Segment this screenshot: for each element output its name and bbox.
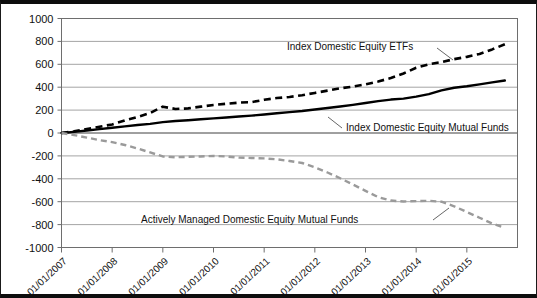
x-tick-label: 01/01/2015: [430, 255, 474, 297]
x-tick-label: 01/01/2007: [25, 255, 69, 297]
y-tick-label: 200: [35, 104, 53, 116]
annotation-index-domestic-equity-mutual-funds-leader-line: [328, 117, 342, 128]
annotation-index-domestic-equity-etfs: Index Domestic Equity ETFs: [287, 41, 413, 52]
series-line-index-domestic-equity-etfs: [62, 44, 505, 133]
y-tick-label: 1000: [29, 13, 53, 25]
y-tick-label: 800: [35, 35, 53, 47]
annotation-actively-managed-domestic-equity-mutual-funds: Actively Managed Domestic Equity Mutual …: [141, 214, 358, 225]
y-tick-label: -800: [31, 219, 53, 231]
annotation-index-domestic-equity-mutual-funds: Index Domestic Equity Mutual Funds: [346, 122, 509, 133]
y-tick-label: 0: [47, 127, 53, 139]
x-tick-label: 01/01/2008: [75, 255, 119, 297]
y-tick-label: 400: [35, 81, 53, 93]
y-tick-label: -600: [31, 196, 53, 208]
x-tick-label: 01/01/2013: [329, 255, 373, 297]
y-tick-label: -400: [31, 173, 53, 185]
y-tick-label: -1000: [25, 242, 53, 254]
x-tick-label: 01/01/2014: [379, 255, 423, 297]
x-tick-label: 01/01/2012: [278, 255, 322, 297]
y-tick-label: -200: [31, 150, 53, 162]
chart-figure: 10008006004002000-200-400-600-800-1000 0…: [0, 0, 537, 298]
x-tick-label: 01/01/2010: [177, 255, 221, 297]
gridlines: [62, 41, 518, 224]
annotation-actively-managed-domestic-equity-mutual-funds-leader-line: [433, 208, 449, 220]
annotation-index-domestic-equity-etfs-leader-line: [437, 48, 453, 60]
y-tick-label: 600: [35, 58, 53, 70]
x-tick-label: 01/01/2011: [228, 255, 272, 297]
x-tick-label: 01/01/2009: [126, 255, 170, 297]
line-chart: 10008006004002000-200-400-600-800-1000 0…: [1, 4, 537, 298]
data-series-layer: [62, 44, 505, 228]
x-axis-ticks: [62, 248, 467, 253]
y-axis-tick-labels: 10008006004002000-200-400-600-800-1000: [25, 13, 53, 254]
x-axis-tick-labels: 01/01/200701/01/200801/01/200901/01/2010…: [25, 255, 475, 297]
